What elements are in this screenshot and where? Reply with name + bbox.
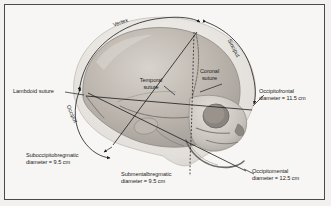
submentalbregmatic-text-line1: Submentalbregmatic	[121, 171, 171, 177]
suboccipitobregmatic-leader	[104, 147, 112, 152]
suboccipitobregmatic-text-line1: Suboccipitobregmatic	[26, 152, 78, 158]
occipitomental-text-line2: diameter = 12.5 cm	[252, 175, 299, 181]
suture-label-coronal: Coronal suture	[193, 68, 226, 81]
occipitofrontal-text-line1: Occipitofrontal	[259, 88, 294, 94]
lambdoid-suture-text: Lambdoid suture	[13, 88, 54, 94]
coronal-suture-text-line1: Coronal	[200, 68, 219, 74]
suture-label-temporal: Temporal suture	[134, 77, 168, 90]
occipitofrontal-text-line2: diameter = 11.5 cm	[259, 95, 306, 101]
suture-label-lambdoid: Lambdoid suture	[13, 88, 54, 95]
submentalbregmatic-text-line2: diameter = 9.5 cm	[121, 178, 165, 184]
diameter-label-submentalbregmatic: Submentalbregmatic diameter = 9.5 cm	[121, 171, 197, 184]
temporal-suture-text-line1: Temporal	[140, 77, 163, 83]
diameter-label-occipitofrontal: Occipitofrontal diameter = 11.5 cm	[259, 88, 325, 101]
temporal-suture-text-line2: suture	[143, 84, 158, 90]
diameter-label-suboccipitobregmatic: Suboccipitobregmatic diameter = 9.5 cm	[26, 152, 104, 165]
occipitomental-text-line1: Occipitomental	[252, 168, 288, 174]
diameter-label-occipitomental: Occipitomental diameter = 12.5 cm	[252, 168, 320, 181]
suboccipitobregmatic-text-line2: diameter = 9.5 cm	[26, 159, 70, 165]
coronal-suture-text-line2: suture	[202, 75, 217, 81]
fetal-skull-diagram: Vertex Sinciput Occiput Lambdoid suture …	[0, 0, 331, 206]
